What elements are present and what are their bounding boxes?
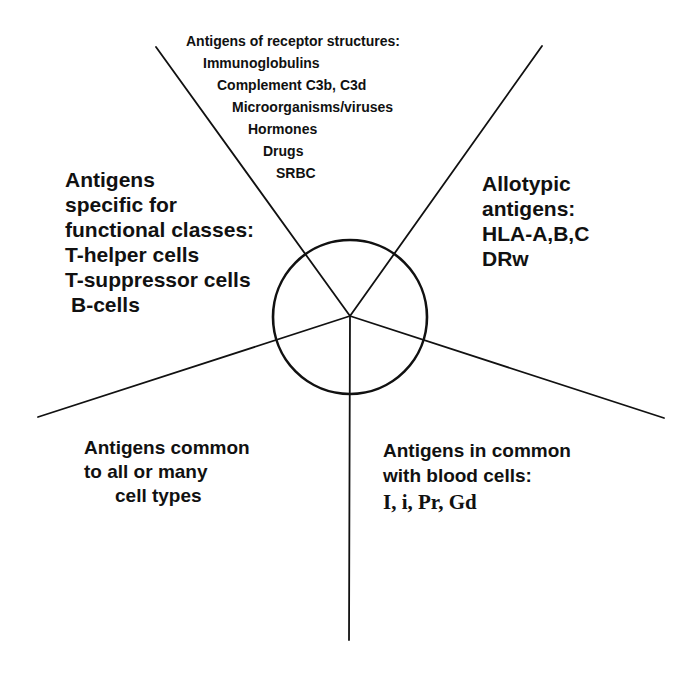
common-line: to all or many	[84, 460, 250, 484]
receptor-item: Immunoglobulins	[203, 52, 400, 74]
common-line: Antigens common	[84, 436, 250, 460]
allotypic-line: Allotypic	[482, 171, 589, 196]
allotypic-item: DRw	[482, 246, 589, 271]
functional-line: functional classes:	[65, 217, 254, 242]
spoke-right	[350, 316, 664, 418]
blood-line: with blood cells:	[383, 463, 571, 488]
receptor-item: SRBC	[276, 162, 400, 184]
allotypic-item: HLA-A,B,C	[482, 221, 589, 246]
functional-classes-label: Antigens specific for functional classes…	[65, 167, 254, 317]
functional-item: T-suppressor cells	[65, 267, 254, 292]
functional-line: Antigens	[65, 167, 254, 192]
spoke-bottom	[349, 316, 350, 640]
functional-item: T-helper cells	[65, 242, 254, 267]
blood-line: Antigens in common	[383, 438, 571, 463]
receptor-structures-label: Antigens of receptor structures: Immunog…	[184, 30, 400, 184]
receptor-item: Drugs	[263, 140, 400, 162]
allotypic-antigens-label: Allotypic antigens: HLA-A,B,C DRw	[482, 171, 589, 271]
common-line: cell types	[115, 484, 250, 508]
receptor-heading: Antigens of receptor structures:	[186, 30, 400, 52]
common-cell-types-label: Antigens common to all or many cell type…	[84, 436, 250, 508]
receptor-item: Hormones	[248, 118, 400, 140]
functional-item: B-cells	[71, 292, 254, 317]
receptor-item: Microorganisms/viruses	[232, 96, 400, 118]
blood-item: I, i, Pr, Gd	[383, 490, 571, 515]
functional-line: specific for	[65, 192, 254, 217]
allotypic-line: antigens:	[482, 196, 589, 221]
blood-cells-label: Antigens in common with blood cells: I, …	[383, 438, 571, 515]
spoke-left	[38, 316, 350, 417]
receptor-item: Complement C3b, C3d	[217, 74, 400, 96]
